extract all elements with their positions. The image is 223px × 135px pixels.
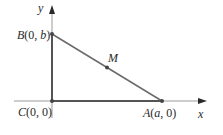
point-m — [105, 66, 109, 70]
label-c: C(0, 0) — [18, 105, 52, 119]
coordinate-diagram: y x B(0, b) C(0, 0) A(a, 0) M — [0, 0, 223, 135]
point-c — [50, 99, 54, 103]
label-m: M — [107, 51, 119, 65]
point-b — [50, 32, 54, 36]
label-b: B(0, b) — [17, 28, 50, 42]
label-a: A(a, 0) — [142, 106, 176, 120]
y-axis-arrow-icon — [49, 5, 55, 14]
x-axis-label: x — [197, 107, 204, 121]
point-a — [160, 99, 164, 103]
y-axis-label: y — [37, 1, 44, 15]
x-axis-arrow-icon — [198, 98, 207, 104]
